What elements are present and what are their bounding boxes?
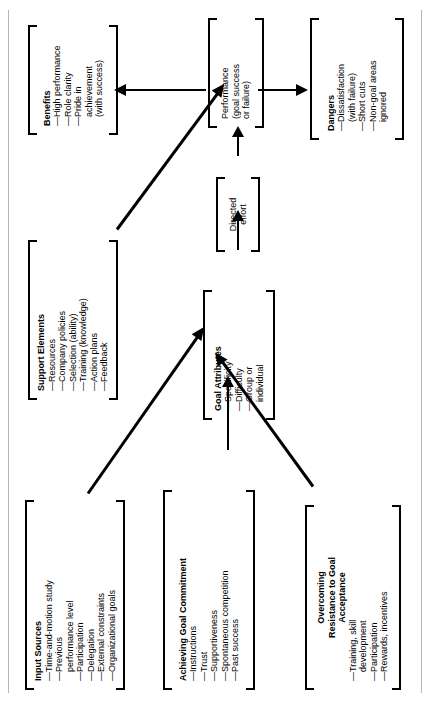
node-items: High performance Role clarity Pride in a… <box>52 34 105 126</box>
node-items: Time-and-motion study Previous performan… <box>44 509 118 681</box>
node-title: Overcoming Resistance to Goal Acceptance <box>316 514 348 681</box>
node-input-sources[interactable]: Input Sources Time-and-motion study Prev… <box>25 500 125 690</box>
list-item: Difficulty <box>234 299 245 411</box>
list-item: Selection (ability) <box>68 249 79 391</box>
node-items: Dissatisfaction (with failure) Short cut… <box>336 27 389 131</box>
list-item: Organizational goals <box>107 509 118 681</box>
node-achieving-goal-commitment[interactable]: Achieving Goal Commitment Instructions T… <box>163 490 255 690</box>
node-benefits[interactable]: Benefits High performance Role clarity P… <box>28 25 118 135</box>
list-item: Action plans <box>89 249 100 391</box>
list-item: Rewards, incentives <box>379 514 390 681</box>
node-goal-attributes[interactable]: Goal Attributes Specificity Difficulty G… <box>203 290 275 420</box>
node-items: Training, skill development Participatio… <box>348 514 390 681</box>
page-rule-right <box>421 10 422 693</box>
node-items: Instructions Trust Supportiveness Sponta… <box>188 499 241 681</box>
list-item: Training, skill development <box>348 514 369 681</box>
node-overcoming-resistance[interactable]: Overcoming Resistance to Goal Acceptance… <box>305 505 401 690</box>
list-item: Role clarity <box>63 34 74 126</box>
node-items: Resources Company policies Selection (ab… <box>47 249 110 391</box>
list-item: Trust <box>199 499 210 681</box>
list-item: Training (knowledge) <box>78 249 89 391</box>
node-support-elements[interactable]: Support Elements Resources Company polic… <box>28 240 118 400</box>
list-item: Time-and-motion study <box>44 509 55 681</box>
list-item: Short cuts <box>357 27 368 131</box>
node-directed-effort[interactable]: Directed effort <box>216 177 260 252</box>
list-item: Participation <box>369 514 380 681</box>
list-item: Pride in achievement (with success) <box>73 34 105 126</box>
node-title: Directed effort <box>228 186 249 243</box>
node-title: Performance (goal success or failure) <box>220 27 252 119</box>
list-item: Delegation <box>86 509 97 681</box>
node-title: Goal Attributes <box>213 299 224 411</box>
node-dangers[interactable]: Dangers Dissatisfaction (with failure) S… <box>310 18 404 140</box>
list-item: Company policies <box>57 249 68 391</box>
list-item: Specificity <box>223 299 234 411</box>
list-item: Instructions <box>188 499 199 681</box>
list-item: Feedback <box>99 249 110 391</box>
list-item: External constraints <box>96 509 107 681</box>
list-item: Past success <box>230 499 241 681</box>
connector-performance-to-dangers <box>258 89 298 91</box>
list-item: High performance <box>52 34 63 126</box>
node-title: Achieving Goal Commitment <box>178 499 189 681</box>
list-item: Non-goal areas ignored <box>368 27 389 131</box>
page-rule-left <box>8 10 9 693</box>
node-title: Support Elements <box>36 249 47 391</box>
node-items: Specificity Difficulty Group or individu… <box>223 299 265 411</box>
node-performance[interactable]: Performance (goal success or failure) <box>208 18 264 128</box>
connector-performance-to-benefits <box>126 89 206 91</box>
list-item: Dissatisfaction (with failure) <box>336 27 357 131</box>
list-item: Participation <box>75 509 86 681</box>
list-item: Spontaneous competition <box>220 499 231 681</box>
node-title: Benefits <box>42 34 53 126</box>
diagram-canvas: Benefits High performance Role clarity P… <box>0 0 435 703</box>
list-item: Supportiveness <box>209 499 220 681</box>
list-item: Group or individual <box>244 299 265 411</box>
arrowhead-to-dangers <box>296 84 308 96</box>
node-title: Dangers <box>326 27 337 131</box>
node-title: Input Sources <box>33 509 44 681</box>
list-item: Resources <box>47 249 58 391</box>
list-item: Previous performance level <box>54 509 75 681</box>
